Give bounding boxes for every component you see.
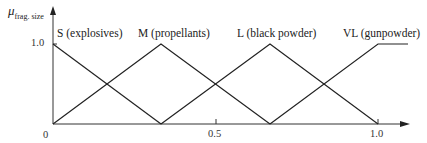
y-axis-arrow-icon [50, 6, 56, 15]
x-tick-label-0.5: 0.5 [208, 128, 221, 139]
legend-label-vl: VL (gunpowder) [343, 27, 420, 39]
x-axis-arrow-icon [400, 121, 410, 127]
series-vl-gunpowder [270, 44, 408, 124]
y-axis-label: μfrag. size [8, 3, 44, 21]
membership-chart [0, 0, 427, 143]
legend-label-m: M (propellants) [138, 27, 210, 39]
series-l-black-powder [161, 44, 378, 124]
series-m-propellants [53, 44, 270, 124]
y-tick-label-1.0: 1.0 [31, 37, 44, 48]
x-tick-label-1.0: 1.0 [370, 128, 383, 139]
legend-label-s: S (explosives) [57, 27, 122, 39]
legend-label-l: L (black powder) [237, 27, 316, 39]
x-tick-label-0: 0 [43, 129, 48, 140]
